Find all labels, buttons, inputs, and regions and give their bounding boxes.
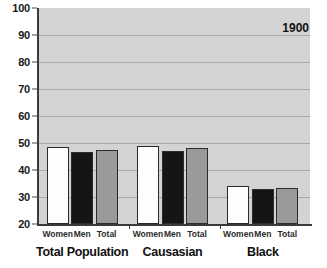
x-axis-tick-label: Total: [187, 228, 207, 240]
y-axis-tick-label: 60: [0, 111, 30, 122]
x-axis-group-separator: [129, 224, 130, 229]
bar: [276, 188, 298, 224]
x-axis-group-separator: [220, 224, 221, 229]
y-axis-tick-label: 50: [0, 138, 30, 149]
year-annotation: 1900: [282, 22, 309, 34]
gridline: [39, 62, 310, 63]
bar: [252, 189, 274, 224]
bar: [227, 186, 249, 224]
x-axis-tick-label: Women: [223, 228, 254, 240]
bar: [96, 150, 118, 224]
x-axis-tick-label: Women: [133, 228, 164, 240]
x-axis-group-label: Total Population: [36, 244, 128, 260]
x-axis-tick-label: Women: [42, 228, 73, 240]
gridline: [39, 143, 310, 144]
y-axis-tick-label: 40: [0, 165, 30, 176]
x-axis-tick-label: Men: [254, 228, 271, 240]
y-axis-tick-label: 20: [0, 219, 30, 230]
x-axis-tick-label: Total: [97, 228, 117, 240]
x-axis-tick-label: Men: [74, 228, 91, 240]
gridline: [39, 89, 310, 90]
bar: [186, 148, 208, 224]
y-axis-tick-label: 80: [0, 57, 30, 68]
x-axis-group-label: Causasian: [143, 244, 203, 260]
bar-chart: 2030405060708090100 WomenMenTotalWomenMe…: [0, 0, 327, 268]
y-axis-tick-label: 70: [0, 84, 30, 95]
y-axis-tick-label: 90: [0, 30, 30, 41]
bar: [162, 151, 184, 224]
bar: [47, 147, 69, 224]
y-axis: 2030405060708090100: [0, 8, 34, 224]
gridline: [39, 116, 310, 117]
x-axis-group-label: Black: [247, 244, 279, 260]
bar: [137, 146, 159, 224]
y-axis-tick-label: 100: [0, 3, 30, 14]
x-axis-tick-label: Total: [277, 228, 297, 240]
plot-area: [39, 8, 310, 224]
x-axis-tick-labels: WomenMenTotalWomenMenTotalWomenMenTotal: [39, 228, 310, 242]
x-axis-tick-label: Men: [164, 228, 181, 240]
y-axis-tick-label: 30: [0, 192, 30, 203]
x-axis-group-labels: Total PopulationCausasianBlack: [39, 244, 310, 264]
x-axis-line: [37, 224, 312, 226]
gridline: [39, 35, 310, 36]
bar: [71, 152, 93, 224]
